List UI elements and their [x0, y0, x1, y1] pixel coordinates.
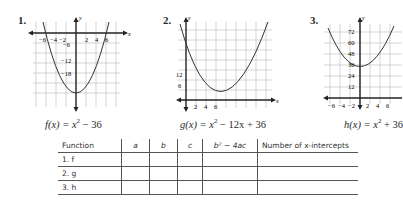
row-label: 1. f	[58, 153, 122, 167]
header-function: Function	[58, 139, 122, 153]
svg-text:y: y	[187, 15, 191, 21]
problem-1-number: 1.	[18, 14, 26, 26]
svg-text:−2: −2	[348, 102, 355, 109]
svg-text:2: 2	[194, 103, 197, 110]
svg-text:6: 6	[178, 82, 182, 89]
cell-a[interactable]	[122, 181, 150, 195]
svg-text:12: 12	[348, 83, 355, 90]
problem-2-number: 2.	[163, 14, 171, 26]
cell-c[interactable]	[178, 167, 203, 181]
svg-text:−6: −6	[39, 36, 47, 43]
row-label: 3. h	[58, 181, 122, 195]
x-axis-label: x	[127, 31, 131, 37]
discriminant-table: Function a b c b² − 4ac Number of x-inte…	[58, 139, 358, 195]
cell-x-intercepts[interactable]	[258, 167, 359, 181]
svg-text:−4: −4	[338, 102, 346, 109]
cell-b[interactable]	[150, 181, 178, 195]
table-row: 3. h	[58, 181, 358, 195]
caption-g: g(x) = x2 − 12x + 36	[180, 117, 266, 130]
header-a: a	[122, 139, 150, 153]
caption-f: f(x) = x2 − 36	[45, 117, 102, 130]
svg-text:−18: −18	[61, 70, 71, 77]
svg-text:60: 60	[348, 39, 355, 46]
table-row: 2. g	[58, 167, 358, 181]
caption-h: h(x) = x2 + 36	[344, 117, 403, 130]
cell-b[interactable]	[150, 153, 178, 167]
header-x-intercepts: Number of x-intercepts	[258, 139, 359, 153]
svg-text:24: 24	[348, 72, 355, 79]
cell-c[interactable]	[178, 181, 203, 195]
svg-text:2: 2	[85, 36, 88, 43]
cell-b[interactable]	[150, 167, 178, 181]
cell-discriminant[interactable]	[203, 167, 258, 181]
svg-text:12: 12	[176, 71, 183, 78]
svg-text:2: 2	[366, 102, 369, 109]
table-row: 1. f	[58, 153, 358, 167]
svg-text:48: 48	[348, 50, 355, 57]
svg-text:4: 4	[376, 102, 380, 109]
svg-text:−6: −6	[63, 41, 71, 48]
cell-a[interactable]	[122, 167, 150, 181]
cell-discriminant[interactable]	[203, 153, 258, 167]
graph-h: y −6−4−2246 726048362412	[322, 12, 402, 112]
svg-text:−6: −6	[328, 102, 336, 109]
svg-text:6: 6	[386, 102, 390, 109]
problem-3-number: 3.	[310, 14, 318, 26]
svg-text:6: 6	[105, 36, 109, 43]
header-discriminant: b² − 4ac	[203, 139, 258, 153]
graph-g: y x 246 126	[176, 12, 281, 112]
table-header-row: Function a b c b² − 4ac Number of x-inte…	[58, 139, 358, 153]
svg-text:4: 4	[204, 103, 208, 110]
y-axis-label: y	[78, 15, 82, 21]
cell-a[interactable]	[122, 153, 150, 167]
svg-text:y: y	[361, 15, 365, 21]
graph-f: y x −6−4−2 246 −6−12−18	[28, 12, 133, 112]
row-label: 2. g	[58, 167, 122, 181]
cell-discriminant[interactable]	[203, 181, 258, 195]
svg-text:−4: −4	[50, 36, 58, 43]
svg-text:4: 4	[95, 36, 99, 43]
svg-text:x: x	[275, 98, 279, 104]
svg-text:72: 72	[348, 28, 355, 35]
cell-x-intercepts[interactable]	[258, 153, 359, 167]
header-b: b	[150, 139, 178, 153]
svg-text:−12: −12	[61, 57, 71, 64]
header-c: c	[178, 139, 203, 153]
cell-c[interactable]	[178, 153, 203, 167]
svg-text:6: 6	[214, 103, 218, 110]
cell-x-intercepts[interactable]	[258, 181, 359, 195]
svg-text:36: 36	[348, 61, 355, 68]
